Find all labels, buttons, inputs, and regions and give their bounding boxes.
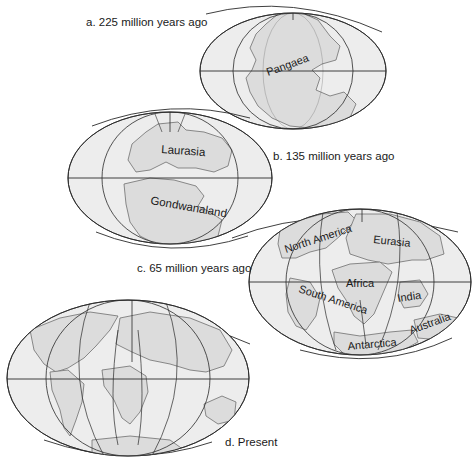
continent-label: Africa	[346, 277, 375, 289]
caption-135-million-years-ago: b. 135 million years ago	[273, 150, 394, 162]
caption-present: d. Present	[225, 436, 277, 448]
globe-present	[6, 300, 250, 458]
caption-65-million-years-ago: c. 65 million years ago	[137, 262, 251, 274]
continental-drift-figure: Pangaea Laurasia Gondwanaland	[0, 0, 475, 468]
caption-225-million-years-ago: a. 225 million years ago	[86, 16, 207, 28]
globes-canvas: Pangaea Laurasia Gondwanaland	[0, 0, 475, 468]
globe-225-million-years-ago: Pangaea	[200, 6, 386, 129]
globe-135-million-years-ago: Laurasia Gondwanaland	[66, 109, 274, 248]
globe-65-million-years-ago: North America Eurasia Africa South Ameri…	[232, 209, 472, 359]
